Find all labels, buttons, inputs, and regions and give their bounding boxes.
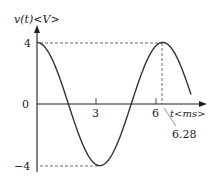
ytick-neg4: −4 xyxy=(14,160,30,173)
ytick-4: 4 xyxy=(24,37,31,50)
chart: v(t)<V> 4 0 −4 3 6 t<ms> 6.28 xyxy=(0,0,217,179)
xtick-3: 3 xyxy=(92,107,99,120)
annotation-628: 6.28 xyxy=(172,128,197,141)
xtick-6: 6 xyxy=(152,107,159,120)
chart-svg: v(t)<V> 4 0 −4 3 6 t<ms> 6.28 xyxy=(0,0,217,179)
x-axis-label: t<ms> xyxy=(170,108,205,119)
ytick-0: 0 xyxy=(22,98,29,111)
y-axis-label: v(t)<V> xyxy=(14,13,60,26)
